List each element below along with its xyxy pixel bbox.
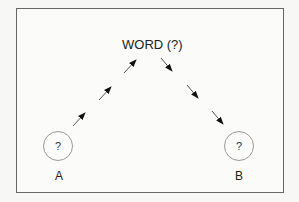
right-node-label: B	[235, 169, 243, 183]
right-arrow-chain	[161, 58, 223, 124]
top-node-label: WORD (?)	[122, 37, 183, 52]
left-arrow-chain	[73, 60, 136, 126]
arrows-layer	[0, 0, 299, 202]
right-node-symbol: ?	[236, 140, 242, 152]
left-node-symbol: ?	[55, 140, 61, 152]
right-node-circle: ?	[224, 131, 254, 161]
left-node-circle: ?	[43, 131, 73, 161]
left-node-label: A	[55, 169, 63, 183]
